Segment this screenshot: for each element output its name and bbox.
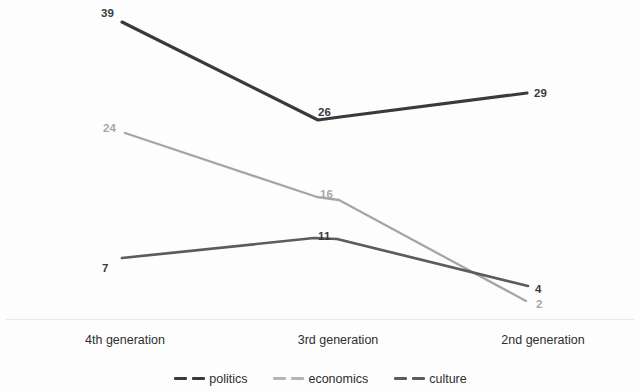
axis-label-4th-generation: 4th generation (50, 333, 200, 347)
legend-label-politics: politics (209, 372, 247, 386)
series-line-culture (122, 238, 528, 286)
legend-dash-icon-economics (273, 377, 304, 380)
data-label-economics-2nd: 2 (536, 298, 543, 310)
data-label-culture-2nd: 4 (535, 283, 542, 295)
legend-item-culture[interactable]: culture (394, 372, 467, 386)
data-label-politics-2nd: 29 (534, 87, 547, 99)
axis-label-2nd-generation: 2nd generation (468, 333, 618, 347)
chart-legend: politics economics culture (0, 366, 641, 391)
data-label-culture-3rd: 11 (318, 230, 331, 242)
legend-dash-icon-politics (174, 377, 205, 380)
series-line-economics (125, 133, 526, 301)
data-label-economics-4th: 24 (103, 122, 116, 134)
axis-label-3rd-generation: 3rd generation (263, 333, 413, 347)
axis-baseline (6, 319, 634, 320)
data-label-politics-3rd: 26 (318, 106, 331, 118)
chart-page: 39 26 29 24 16 2 7 11 4 4th generation 3… (0, 0, 641, 391)
legend-item-politics[interactable]: politics (174, 372, 247, 386)
legend-item-economics[interactable]: economics (273, 372, 368, 386)
data-label-politics-4th: 39 (101, 7, 114, 19)
data-label-culture-4th: 7 (102, 262, 109, 274)
data-label-economics-3rd: 16 (320, 188, 333, 200)
legend-label-economics: economics (308, 372, 368, 386)
legend-dash-icon-culture (394, 377, 425, 380)
legend-label-culture: culture (429, 372, 467, 386)
